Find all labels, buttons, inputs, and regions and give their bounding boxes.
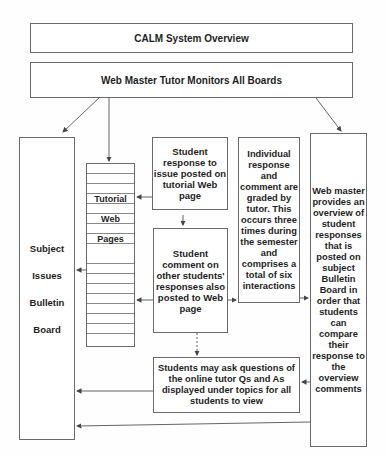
bulletin-board-box: Subject Issues Bulletin Board <box>19 137 75 440</box>
board-word-1: Subject <box>30 243 64 254</box>
grading-box: Individual response and comment are grad… <box>238 137 300 303</box>
student-comment-text: Student comment on other students' respo… <box>154 248 227 314</box>
web-label: Web <box>87 214 134 224</box>
board-word-4: Board <box>33 324 60 335</box>
arrow-master-to-overview <box>316 98 341 131</box>
diagram-title: CALM System Overview <box>134 33 249 44</box>
grading-text: Individual response and comment are grad… <box>239 149 299 292</box>
web-master-label: Web Master Tutor Monitors All Boards <box>101 75 282 86</box>
pages-label: Pages <box>87 234 134 244</box>
tutorial-label: Tutorial <box>87 194 134 204</box>
arrow-master-to-board <box>63 98 99 132</box>
overview-text: Web master provides an overview of stude… <box>311 186 366 395</box>
board-word-2: Issues <box>32 270 62 281</box>
tutorial-pages-stack: Tutorial Web Pages <box>86 163 135 347</box>
title-box: CALM System Overview <box>30 23 353 53</box>
student-response-box: Student response to issue posted on tuto… <box>152 137 228 210</box>
overview-box: Web master provides an overview of stude… <box>310 133 367 447</box>
questions-text: Students may ask questions of the online… <box>154 363 299 407</box>
board-word-3: Bulletin <box>30 297 65 308</box>
arrow-overview-to-board <box>77 422 310 426</box>
student-response-text: Student response to issue posted on tuto… <box>153 146 227 201</box>
web-master-box: Web Master Tutor Monitors All Boards <box>30 62 353 98</box>
student-comment-box: Student comment on other students' respo… <box>153 228 228 333</box>
questions-box: Students may ask questions of the online… <box>153 357 300 413</box>
